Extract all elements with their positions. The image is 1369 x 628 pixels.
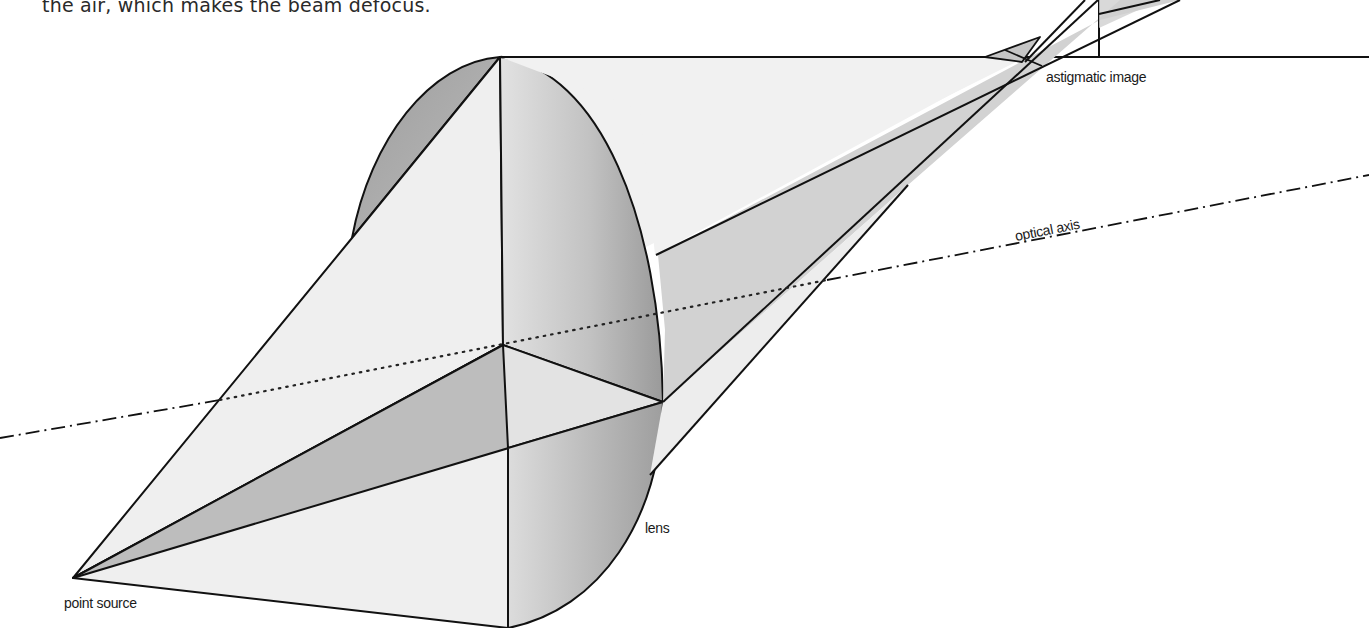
label-astigmatic-image: astigmatic image (1046, 69, 1147, 85)
astigmatism-diagram: point source lens astigmatic image optic… (0, 0, 1369, 628)
label-optical-axis: optical axis (1014, 216, 1082, 244)
label-lens: lens (645, 520, 670, 536)
label-point-source: point source (64, 595, 137, 611)
